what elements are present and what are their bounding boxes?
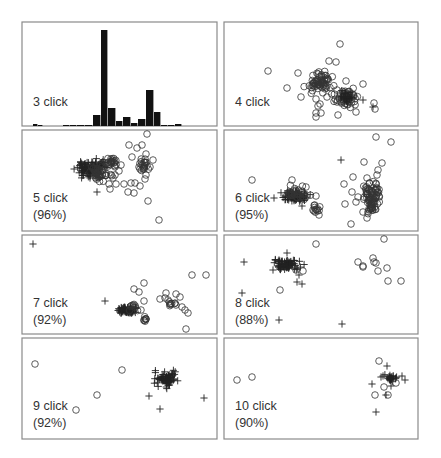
panel-3-click: 3 click [22,22,217,126]
panel-accuracy: (92%) [33,416,66,430]
histogram-bar [116,121,122,126]
panel-label: 10 click [235,399,277,413]
panel-label: 3 click [33,95,68,109]
panel-accuracy: (92%) [33,313,66,327]
panel-accuracy: (96%) [33,208,66,222]
panel-9-click: 9 click (92%) [22,338,217,439]
panel-accuracy: (88%) [235,313,268,327]
panel-8-click: 8 click (88%) [224,235,418,334]
histogram-bar [85,125,92,126]
histogram-bar [108,108,115,126]
panel-5-click: 5 click (96%) [22,130,217,231]
histogram-bar [101,30,107,126]
histogram-bar [93,115,100,126]
panel-label: 5 click [33,191,68,205]
histogram-bar [63,125,69,126]
panel-6-click: 6 click (95%) [224,130,418,231]
panel-accuracy: (95%) [235,208,268,222]
histogram-bar [77,125,84,126]
histogram-bar [131,123,137,126]
panel-4-click: 4 click [224,22,418,126]
panel-10-click: 10 click (90%) [224,338,418,439]
panel-frame [22,22,217,126]
histogram-bar [33,124,37,126]
histogram-bar [38,125,42,126]
panel-7-click: 7 click (92%) [22,235,217,334]
multi-panel-click-chart: 3 click 4 click 5 click (96%) 6 click (9… [0,0,441,458]
panel-label: 6 click [235,191,270,205]
histogram-bar [154,112,160,126]
histogram-bar [138,119,145,126]
panel-label: 8 click [235,296,270,310]
histogram-bar [168,125,174,126]
histogram-bar [70,125,76,126]
histogram-bar [123,117,130,126]
panel-accuracy: (90%) [235,416,268,430]
panel-label: 7 click [33,296,68,310]
histogram-bar [161,125,167,126]
histogram-bar [146,90,153,126]
panel-label: 4 click [235,95,270,109]
histogram-bar [175,124,181,126]
panel-label: 9 click [33,399,68,413]
